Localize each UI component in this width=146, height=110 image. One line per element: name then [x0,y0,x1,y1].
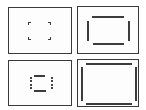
frame-line-bottom [86,103,132,105]
frame-line-top [92,16,124,18]
corner-bracket-top-left [28,22,31,25]
frame-bar-bottom [34,90,46,92]
frame-dashed-right [51,77,53,90]
frame-line-right [128,21,130,41]
frame-line-top [86,63,132,65]
corner-bracket-bottom-left [28,37,31,40]
panel-bottom-right [77,59,139,107]
panel-bottom-left [8,60,72,106]
frame-line-left [81,67,83,101]
frame-dashed-left [30,77,32,90]
corner-bracket-bottom-right [48,37,51,40]
corner-bracket-top-right [48,22,51,25]
panel-top-right [77,6,139,54]
frame-line-left [87,21,89,41]
frame-line-right [135,67,137,101]
panel-top-left [8,7,72,54]
frame-bar-top [34,75,45,77]
frame-line-bottom [93,43,124,45]
